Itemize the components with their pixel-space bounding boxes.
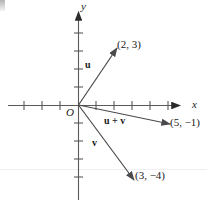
point-label-5-neg1: (5, −1) [170, 117, 200, 128]
point-label-3-neg4: (3, −4) [135, 170, 165, 181]
x-axis-label: x [192, 99, 197, 110]
vector-addition-figure: x y O u u + v v (2, 3) (5, −1) (3, −4) [0, 0, 207, 206]
vector-u-plus-v-label: u + v [104, 116, 125, 126]
vector-u-label: u [85, 60, 91, 70]
point-label-2-3: (2, 3) [117, 39, 141, 50]
vector-u-arrow [79, 48, 118, 105]
vector-v-label: v [92, 138, 97, 148]
coordinate-plane-svg [0, 0, 207, 206]
y-axis-label: y [81, 1, 86, 12]
origin-label: O [66, 107, 74, 118]
